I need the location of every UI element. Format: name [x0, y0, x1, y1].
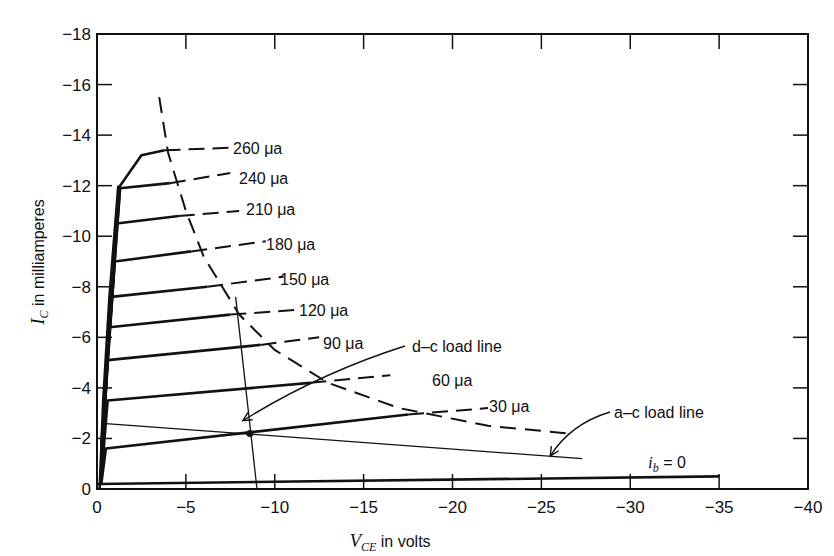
x-tick-label: −20: [438, 498, 467, 517]
ib-zero-curve: [97, 476, 719, 484]
collector-curve-dashed: [207, 277, 283, 287]
y-tick-label: −6: [72, 328, 91, 347]
axis-ticks: 0−5−10−15−20−25−30−35−400−2−4−6−8−10−12−…: [62, 25, 822, 517]
y-tick-label: −10: [62, 227, 91, 246]
curve-label: 260 μa: [233, 140, 282, 157]
curve-label: 60 μa: [432, 372, 472, 389]
x-tick-label: 0: [92, 498, 101, 517]
y-tick-label: −12: [62, 177, 91, 196]
data-series: 30 μa60 μa90 μa120 μa150 μa180 μa210 μa2…: [97, 97, 719, 489]
curve-label: 120 μa: [299, 302, 348, 319]
collector-curve-dashed: [165, 148, 231, 151]
ac-load-line-label: a–c load line: [614, 404, 704, 421]
arrow-head-icon: [550, 446, 558, 456]
collector-curve: [101, 345, 260, 470]
annotations: [243, 346, 610, 456]
y-tick-label: −4: [72, 379, 91, 398]
collector-curve-dashed: [170, 173, 230, 183]
arrow-head-icon: [243, 412, 253, 420]
collector-curve-dashed: [408, 408, 488, 414]
collector-curve-dashed: [179, 211, 239, 216]
x-tick-label: −40: [794, 498, 823, 517]
x-axis-title: VCE in volts: [349, 530, 430, 554]
y-tick-label: 0: [82, 480, 91, 499]
d-c-load-line: [236, 297, 257, 489]
annotation-arrow: [243, 346, 405, 421]
transistor-characteristic-chart: 0−5−10−15−20−25−30−35−400−2−4−6−8−10−12−…: [0, 0, 834, 556]
x-tick-label: −35: [705, 498, 734, 517]
x-tick-label: −25: [527, 498, 556, 517]
y-tick-label: −18: [62, 25, 91, 44]
ib-zero-label: ib = 0: [648, 453, 686, 475]
collector-curve-dashed: [191, 241, 266, 251]
curve-label: 240 μa: [239, 170, 288, 187]
y-axis-title: IC in milliamperes: [27, 199, 51, 325]
curve-label: 90 μa: [323, 335, 363, 352]
x-tick-label: −5: [176, 498, 195, 517]
curve-label: 180 μa: [266, 236, 315, 253]
y-tick-label: −2: [72, 429, 91, 448]
x-tick-label: −15: [349, 498, 378, 517]
dc-load-line-label: d–c load line: [412, 338, 502, 355]
curve-label: 30 μa: [489, 398, 529, 415]
curve-label: 150 μa: [280, 271, 329, 288]
x-tick-label: −30: [616, 498, 645, 517]
collector-curve: [101, 287, 207, 460]
q-point-dot: [246, 430, 253, 437]
annotation-arrow: [550, 412, 610, 456]
collector-curve-dashed: [230, 310, 301, 315]
x-tick-label: −10: [260, 498, 289, 517]
y-tick-label: −14: [62, 126, 91, 145]
y-tick-label: −16: [62, 76, 91, 95]
curve-label: 210 μa: [246, 201, 295, 218]
y-tick-label: −8: [72, 278, 91, 297]
